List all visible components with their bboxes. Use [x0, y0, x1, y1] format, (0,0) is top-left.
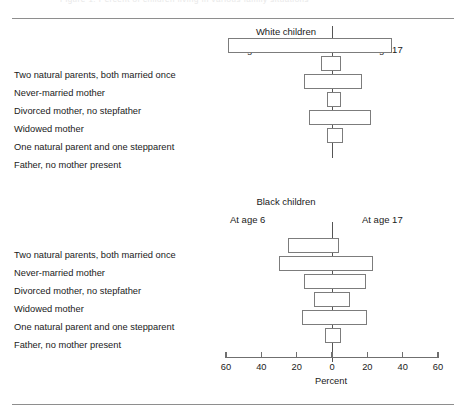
bar [314, 292, 349, 307]
panel-title-black: Black children [0, 196, 466, 207]
bar [302, 310, 367, 325]
bar [309, 110, 371, 125]
top-rule [12, 18, 454, 19]
bar [279, 256, 373, 271]
bar [327, 92, 341, 107]
axis-tick [296, 352, 297, 358]
panel-title-white-text: White children [256, 26, 316, 37]
plot-area-black [0, 238, 466, 358]
axis-title-text: Percent [315, 376, 347, 386]
category-label: Father, no mother present [14, 156, 226, 174]
panel-title-black-text: Black children [256, 196, 315, 207]
axis-tick-label: 40 [397, 362, 407, 372]
axis-tick [261, 352, 262, 358]
age-label-left-black: At age 6 [230, 214, 265, 225]
faint-header-text: Figure 1. Percent of children living in … [60, 0, 410, 7]
figure-container: Figure 1. Percent of children living in … [0, 0, 466, 419]
panel-title-white: White children [0, 26, 466, 37]
bottom-rule [12, 404, 454, 405]
axis-tick-label: 60 [433, 362, 443, 372]
bar [327, 128, 343, 143]
bar [321, 56, 340, 71]
axis-tick [331, 352, 332, 358]
plot-area-white [0, 38, 466, 158]
axis-tick [402, 352, 403, 358]
axis-title: Percent [0, 376, 466, 386]
axis-tick [367, 352, 368, 358]
age-label-right-black: At age 17 [362, 214, 403, 225]
bar [304, 74, 362, 89]
bar [288, 238, 339, 253]
axis-tick [437, 352, 438, 358]
axis-tick-label: 40 [256, 362, 266, 372]
bar [304, 274, 366, 289]
bar [228, 38, 392, 53]
axis-tick-label: 20 [362, 362, 372, 372]
axis-tick-label: 20 [291, 362, 301, 372]
bar [325, 328, 341, 343]
axis-tick-label: 60 [221, 362, 231, 372]
x-axis: 6040200204060 Percent [0, 357, 466, 397]
axis-tick-label: 0 [329, 362, 334, 372]
axis-tick [225, 352, 226, 358]
